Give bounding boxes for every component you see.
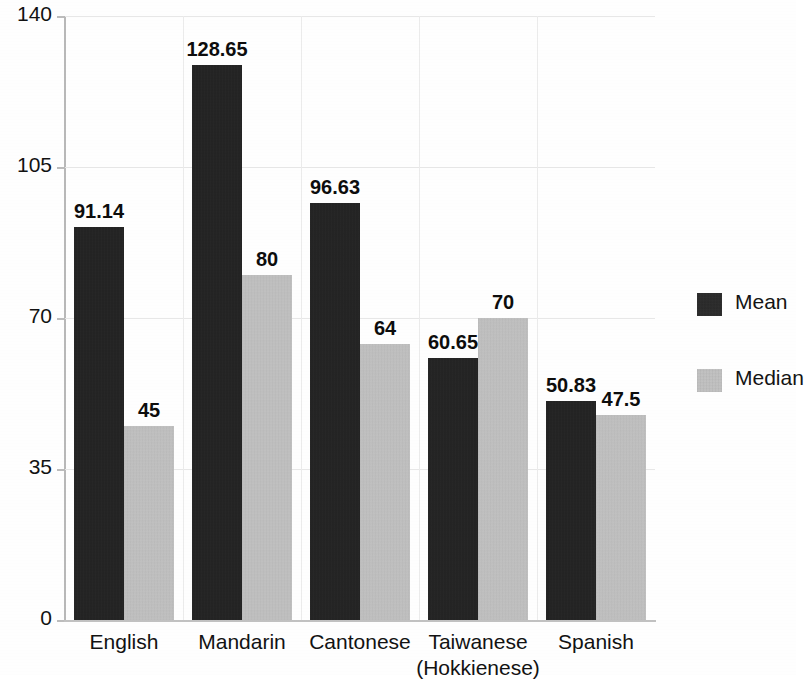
x-tick-label: Spanish (506, 629, 686, 655)
y-tick-mark (57, 16, 64, 18)
y-tick-label: 0 (0, 606, 52, 630)
y-tick-mark (57, 620, 64, 622)
y-tick-label: 35 (0, 455, 52, 479)
bar-median-taiwanese (478, 318, 528, 620)
bar-median-cantonese (360, 344, 410, 620)
legend-swatch-median (697, 369, 722, 392)
legend-label: Median (735, 366, 804, 390)
bar-mean-mandarin (192, 65, 242, 620)
bar-median-english (124, 426, 174, 620)
bar-median-mandarin (242, 275, 292, 620)
bar-mean-english (74, 227, 124, 620)
x-tick-label-line: Spanish (558, 630, 634, 653)
y-tick-mark (57, 318, 64, 320)
bar-value-label: 91.14 (39, 200, 159, 223)
bar-value-label: 47.5 (561, 388, 681, 411)
x-axis-line (64, 620, 656, 622)
y-tick-mark (57, 167, 64, 169)
bar-value-label: 60.65 (393, 331, 513, 354)
bar-mean-spanish (546, 401, 596, 620)
bar-value-label: 80 (207, 248, 327, 271)
x-tick-label-line: English (90, 630, 159, 653)
legend-swatch-mean (697, 293, 722, 316)
y-tick-label: 105 (0, 153, 52, 177)
bar-value-label: 128.65 (157, 38, 277, 61)
y-tick-label: 70 (0, 304, 52, 328)
bar-mean-taiwanese (428, 358, 478, 620)
bar-value-label: 70 (443, 291, 563, 314)
bar-value-label: 96.63 (275, 176, 395, 199)
bar-value-label: 45 (89, 399, 209, 422)
y-tick-mark (57, 469, 64, 471)
legend-label: Mean (735, 290, 788, 314)
bar-median-spanish (596, 415, 646, 620)
y-tick-label: 140 (0, 2, 52, 26)
x-tick-label-line: (Hokkienese) (388, 655, 568, 681)
